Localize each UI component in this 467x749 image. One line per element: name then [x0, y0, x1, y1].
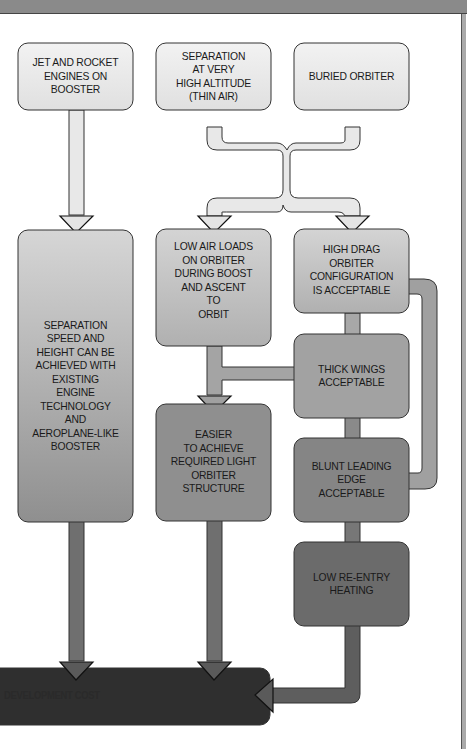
connector-jet-to-separation	[69, 110, 84, 215]
node-label: EASIER TO ACHIEVE REQUIRED LIGHT ORBITER…	[162, 420, 266, 504]
connector-reentry-to-cost	[272, 615, 360, 703]
node-label: SEPARATION SPEED AND HEIGHT CAN BE ACHIE…	[24, 250, 128, 522]
node-label: SEPARATION AT VERY HIGH ALTITUDE (THIN A…	[162, 43, 266, 110]
connectors-top	[69, 110, 360, 218]
node-label: HIGH DRAG ORBITER CONFIGURATION IS ACCEP…	[300, 240, 404, 300]
connector-highdrag-to-blunt	[408, 279, 437, 489]
node-label: BURIED ORBITER	[300, 43, 404, 110]
node-label: THICK WINGS ACCEPTABLE	[300, 334, 404, 418]
connector-highdrag-to-thickwings	[345, 313, 360, 335]
node-label-dev-cost: DEVELOPMENT COST	[4, 689, 100, 701]
node-label: BLUNT LEADING EDGE ACCEPTABLE	[300, 438, 404, 522]
node-label: LOW AIR LOADS ON ORBITER DURING BOOST AN…	[162, 240, 266, 340]
connector-merge	[207, 127, 360, 218]
connector-lowair-thickwings-to-easier	[207, 346, 296, 395]
connector-easier-to-cost	[207, 520, 222, 661]
connector-thickwings-to-blunt	[345, 417, 360, 439]
connector-blunt-to-reentry	[345, 521, 360, 543]
node-label: JET AND ROCKET ENGINES ON BOOSTER	[24, 43, 128, 110]
connector-separation-to-cost	[69, 521, 84, 661]
node-label: LOW RE-ENTRY HEATING	[300, 542, 404, 626]
